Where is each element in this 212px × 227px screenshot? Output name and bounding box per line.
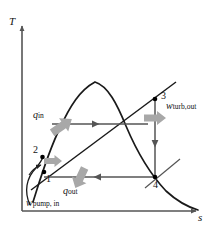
turbine-flow-arrow-icon bbox=[152, 140, 159, 148]
w-pump-in-block-arrow-icon bbox=[44, 155, 62, 167]
state-label-2: 2 bbox=[33, 145, 38, 155]
pump-work-label: wpump, in bbox=[26, 198, 59, 208]
y-axis-label: T bbox=[9, 16, 15, 27]
pump-work-subscript: pump, in bbox=[33, 199, 60, 208]
heat-in-subscript: in bbox=[38, 111, 44, 120]
x-axis-label: s bbox=[198, 212, 202, 223]
heat-in-label: qin bbox=[33, 110, 44, 120]
boiler-flow-arrow-icon bbox=[92, 121, 100, 128]
process-4-1-group bbox=[44, 174, 155, 181]
t-s-diagram-figure: T s 1 2 3 4 qin qout wturb,out wpump, in bbox=[0, 0, 212, 227]
q-in-block-arrow-icon bbox=[48, 113, 77, 140]
pump-work-symbol: w bbox=[26, 197, 33, 208]
condenser-flow-arrow-icon bbox=[94, 174, 102, 181]
turbine-work-label: wturb,out bbox=[166, 101, 196, 111]
turbine-work-symbol: w bbox=[166, 100, 173, 111]
turbine-work-subscript: turb,out bbox=[173, 102, 197, 111]
state-point-3 bbox=[153, 97, 158, 102]
isobar-low-pressure-line bbox=[145, 159, 180, 188]
isobar-low-group bbox=[145, 159, 180, 188]
state-label-4: 4 bbox=[153, 180, 158, 190]
block-arrows-group bbox=[44, 111, 166, 191]
heat-out-subscript: out bbox=[68, 187, 78, 196]
diagram-canvas bbox=[0, 0, 212, 227]
process-3-4-group bbox=[152, 99, 159, 177]
heat-out-label: qout bbox=[63, 186, 78, 196]
state-label-1: 1 bbox=[46, 174, 51, 184]
